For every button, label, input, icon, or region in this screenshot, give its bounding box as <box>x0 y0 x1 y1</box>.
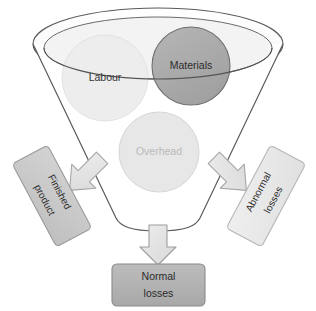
diagram-canvas: Labour Materials Overhead Finished produ… <box>0 0 316 311</box>
label-materials: Materials <box>170 59 213 71</box>
output-box-normal-losses-line2: losses <box>144 287 174 299</box>
output-box-normal-losses[interactable]: Normal losses <box>112 264 205 306</box>
label-labour: Labour <box>89 71 122 83</box>
output-box-finished-product[interactable]: Finished product <box>12 145 91 247</box>
process-costing-diagram: Labour Materials Overhead Finished produ… <box>0 0 316 311</box>
label-overhead: Overhead <box>136 145 182 157</box>
output-box-abnormal-losses[interactable]: Abnormal losses <box>226 145 305 247</box>
output-box-normal-losses-line1: Normal <box>142 270 176 282</box>
